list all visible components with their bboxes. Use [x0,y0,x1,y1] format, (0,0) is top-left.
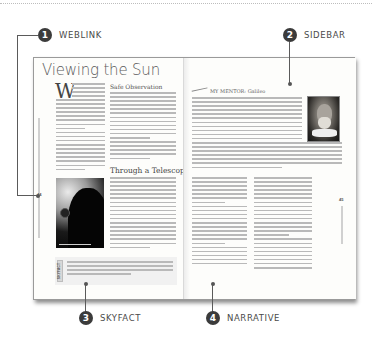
leader-dot [211,282,215,286]
right-page: MY MENTOR: Galileo [184,58,356,299]
person-silhouette [68,188,104,248]
leader-line [85,283,86,312]
callout-label: SIDEBAR [304,30,346,40]
book-spread: Viewing the Sun 44 W Safe Observation [33,57,355,300]
telescope-text [110,177,176,251]
leader-dot [288,82,292,86]
callout-number: 4 [206,311,220,325]
telescope-eyepiece [60,208,70,218]
callout-label: SKYFACT [100,313,141,323]
callout-label: WEBLINK [59,30,102,40]
subhead-through-telescope: Through a Telescope [110,166,184,175]
left-page: Viewing the Sun 44 W Safe Observation [34,58,184,299]
subhead-safe-observation: Safe Observation [110,83,162,90]
running-head-left [38,118,40,238]
skyfact-tag: SKYFACT [57,260,63,282]
callout-narrative: 4 NARRATIVE [206,311,280,325]
callout-number: 3 [79,311,93,325]
leader-line [17,35,18,196]
leader-line [17,35,38,36]
safe-observation-text [110,92,176,162]
photo-caption [59,244,91,246]
sidebar-text-wide [192,142,342,171]
leader-dot [84,282,88,286]
callout-sidebar: 2 SIDEBAR [283,28,346,42]
narrative-col-2 [254,177,312,271]
narrative-text-left [56,99,105,173]
silhouette-photo [56,178,104,248]
leader-line [212,283,213,312]
callout-weblink: 1 WEBLINK [38,28,102,42]
intro-text-top [72,83,105,99]
callout-number: 1 [38,28,52,42]
callout-skyfact: 3 SKYFACT [79,311,141,325]
skyfact-text [67,261,173,277]
leader-dot [36,194,40,198]
top-dotted-rule [0,3,372,4]
folio-right: 45 [339,197,343,202]
skyfact-box: SKYFACT [55,257,177,285]
callout-label: NARRATIVE [227,313,280,323]
sidebar-box: MY MENTOR: Galileo [190,88,350,158]
narrative-col-1 [192,177,247,267]
running-head-right [341,206,343,244]
skyfact-tag-label: SKYFACT [57,263,61,279]
page-title: Viewing the Sun [42,61,160,79]
callout-number: 2 [283,28,297,42]
sidebar-text [192,97,302,142]
leader-line [17,195,38,196]
galileo-portrait [307,96,340,142]
sidebar-heading: MY MENTOR: Galileo [210,88,265,94]
leader-line [289,42,290,84]
swoosh-icon [192,87,209,95]
